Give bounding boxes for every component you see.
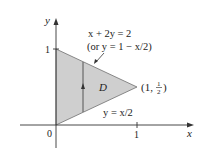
leader-arrow-icon: [94, 59, 98, 64]
upper-boundary-equation: x + 2y = 2: [88, 28, 131, 39]
y-tick-label: 1: [45, 44, 50, 55]
upper-boundary-alt-equation: (or y = 1 − x/2): [87, 41, 152, 53]
vertex-label: (1, 1 2 ): [141, 80, 167, 96]
vertex-label-open: (1,: [141, 81, 153, 94]
vertex-label-den: 2: [157, 88, 161, 96]
region-label: D: [98, 81, 107, 93]
vertex-label-num: 1: [157, 80, 161, 88]
y-axis-label: y: [44, 14, 50, 26]
lower-boundary-equation: y = x/2: [103, 107, 133, 118]
origin-label: 0: [47, 128, 52, 139]
vertex-label-close: ): [163, 81, 167, 94]
y-axis-arrow-icon: [54, 18, 59, 25]
region-diagram: y x 0 1 1 D x + 2y = 2 (or y = 1 − x/2) …: [0, 0, 206, 157]
x-tick-label: 1: [134, 129, 139, 140]
x-axis-label: x: [186, 127, 192, 139]
